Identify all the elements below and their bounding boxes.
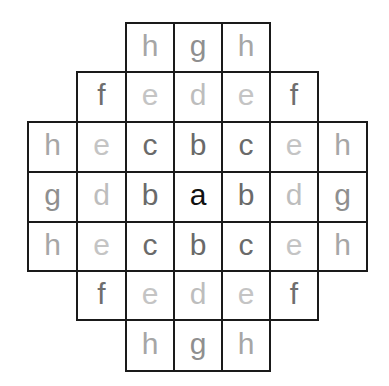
grid-cell-e: e: [76, 121, 127, 173]
grid-cell-b: b: [125, 171, 175, 223]
grid-cell-b: b: [173, 221, 223, 272]
grid-cell-f: f: [269, 270, 319, 321]
grid-cell-h: h: [125, 22, 175, 73]
grid-cell-d: d: [269, 171, 319, 223]
grid-cell-f: f: [269, 71, 319, 123]
grid-cell-c: c: [221, 221, 271, 272]
grid-cell-h: h: [27, 121, 78, 173]
grid-cell-g: g: [317, 171, 368, 223]
grid-cell-e: e: [269, 121, 319, 173]
grid-cell-e: e: [125, 71, 175, 123]
grid-cell-h: h: [317, 221, 368, 272]
grid-cell-f: f: [76, 71, 127, 123]
letter-distance-grid: hghfedefhecbcehgdbabdghecbcehfedefhgh: [0, 0, 389, 386]
grid-cell-f: f: [76, 270, 127, 321]
grid-cell-h: h: [221, 319, 271, 372]
grid-cell-c: c: [125, 221, 175, 272]
grid-cell-e: e: [269, 221, 319, 272]
grid-cell-g: g: [173, 319, 223, 372]
grid-cell-d: d: [173, 270, 223, 321]
grid-cell-b: b: [221, 171, 271, 223]
grid-cell-b: b: [173, 121, 223, 173]
grid-cell-g: g: [173, 22, 223, 73]
grid-cell-h: h: [221, 22, 271, 73]
grid-cell-d: d: [76, 171, 127, 223]
grid-cell-e: e: [221, 71, 271, 123]
grid-cell-h: h: [125, 319, 175, 372]
grid-cell-h: h: [317, 121, 368, 173]
grid-cell-c: c: [125, 121, 175, 173]
grid-cell-h: h: [27, 221, 78, 272]
grid-cell-e: e: [76, 221, 127, 272]
grid-cell-d: d: [173, 71, 223, 123]
grid-cell-e: e: [125, 270, 175, 321]
grid-cell-c: c: [221, 121, 271, 173]
grid-cell-g: g: [27, 171, 78, 223]
grid-cell-e: e: [221, 270, 271, 321]
grid-cell-a: a: [173, 171, 223, 223]
